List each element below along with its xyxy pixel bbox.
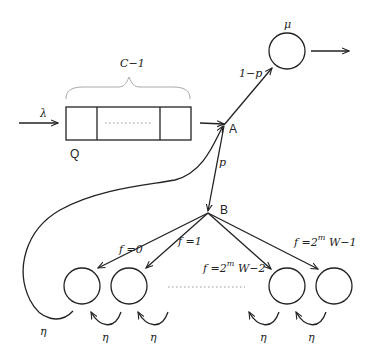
branch-label-n2: f =2m W−2 <box>202 259 265 275</box>
queue-label: Q <box>70 147 79 161</box>
backoff-stage-1 <box>111 268 147 304</box>
branch-label-0: f =0 <box>118 243 143 256</box>
backoff-stage-n1 <box>316 268 352 304</box>
feedback-rate-label: η <box>40 325 47 338</box>
branch-label-n1: f =2m W−1 <box>293 233 356 249</box>
junction-a-label: A <box>229 122 237 136</box>
a-to-b-prob-label: p <box>219 156 226 169</box>
arrival-rate-label: λ <box>39 107 47 120</box>
server-node <box>269 33 305 69</box>
a-to-server-prob-label: 1−p <box>239 67 262 80</box>
feedback-curve <box>23 126 223 319</box>
stage-rate-label-2: η <box>150 331 157 344</box>
b-to-stage-n2-arrow <box>208 213 271 269</box>
stage-rate-label-n1: η <box>308 331 315 344</box>
queueing-diagram: λ C−1 Q A 1−p μ p B η f =0 f =1 f =2m W−… <box>0 0 368 359</box>
stage-2-to-1-arc <box>138 312 168 325</box>
branch-label-1: f =1 <box>177 235 202 248</box>
queue-to-a-arrow <box>200 123 224 124</box>
capacity-label: C−1 <box>120 57 145 70</box>
queue-buffer <box>66 107 191 140</box>
stage-1-to-0-arc <box>91 312 121 325</box>
stage-n1-arc <box>296 312 326 325</box>
junction-b-label: B <box>220 203 228 217</box>
backoff-stage-0 <box>64 268 100 304</box>
stage-rate-label-n2: η <box>260 331 267 344</box>
stage-rate-label-1: η <box>102 331 109 344</box>
stage-n2-arc <box>249 312 279 325</box>
capacity-brace <box>66 77 190 99</box>
service-rate-label: μ <box>284 18 291 31</box>
backoff-stage-n2 <box>269 268 305 304</box>
